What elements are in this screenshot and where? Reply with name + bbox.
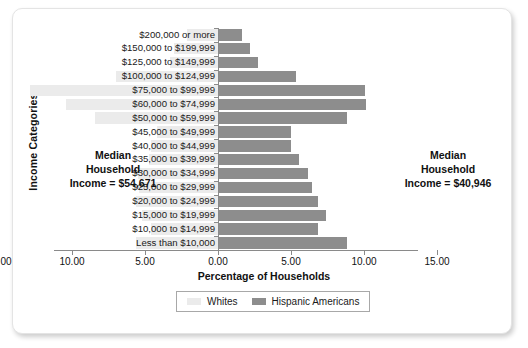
bar-hispanic-americans bbox=[219, 210, 326, 221]
chart-row: $200,000 or more bbox=[54, 28, 418, 42]
bar-hispanic-americans bbox=[219, 43, 250, 54]
chart-row: $15,000 to $19,999 bbox=[54, 208, 418, 222]
y-axis-tick bbox=[214, 236, 218, 237]
legend-swatch bbox=[252, 298, 266, 305]
x-axis-tick bbox=[218, 250, 219, 255]
x-axis-tick bbox=[72, 250, 73, 255]
bar-hispanic-americans bbox=[219, 168, 308, 179]
annotation-median-hispanic: Median Household Income = $40,946 bbox=[383, 148, 513, 190]
chart-canvas: Income Categories $200,000 or more$150,0… bbox=[0, 0, 528, 348]
x-axis-tick-label: 15.00 bbox=[0, 256, 29, 267]
bar-hispanic-americans bbox=[219, 71, 296, 82]
chart-row: $100,000 to $124,999 bbox=[54, 70, 418, 84]
x-axis-tick-label: 10.00 bbox=[334, 256, 394, 267]
y-axis-tick bbox=[214, 222, 218, 223]
vertical-axis-line bbox=[218, 28, 219, 250]
legend-swatch bbox=[187, 298, 201, 305]
annotation-line-3: Income = $54,671 bbox=[48, 176, 178, 190]
category-label: $125,000 to $149,999 bbox=[122, 55, 218, 69]
category-label: $60,000 to $74,999 bbox=[132, 97, 218, 111]
x-axis-tick bbox=[145, 250, 146, 255]
chart-row: $45,000 to $49,999 bbox=[54, 125, 418, 139]
bar-hispanic-americans bbox=[219, 140, 291, 151]
bar-hispanic-americans bbox=[219, 223, 318, 234]
bar-hispanic-americans bbox=[219, 126, 291, 137]
x-axis-tick-label: 10.00 bbox=[42, 256, 102, 267]
chart-legend: WhitesHispanic Americans bbox=[176, 291, 370, 312]
x-axis-tick-label: 5.00 bbox=[115, 256, 175, 267]
legend-label: Whites bbox=[207, 296, 238, 307]
x-axis-tick-label: 0.00 bbox=[188, 256, 248, 267]
x-axis-tick bbox=[364, 250, 365, 255]
y-axis-tick bbox=[214, 167, 218, 168]
x-axis-tick bbox=[291, 250, 292, 255]
chart-screenshot: Income Categories $200,000 or more$150,0… bbox=[0, 0, 528, 348]
chart-row: $50,000 to $59,999 bbox=[54, 111, 418, 125]
category-label: $20,000 to $24,999 bbox=[132, 194, 218, 208]
bar-hispanic-americans bbox=[219, 85, 365, 96]
y-axis-tick bbox=[214, 208, 218, 209]
category-label: $100,000 to $124,999 bbox=[122, 69, 218, 83]
chart-row: $75,000 to $99,999 bbox=[54, 84, 418, 98]
chart-row: $150,000 to $199,999 bbox=[54, 42, 418, 56]
chart-row: $20,000 to $24,999 bbox=[54, 195, 418, 209]
y-axis-tick bbox=[214, 70, 218, 71]
y-axis-tick bbox=[214, 139, 218, 140]
bar-hispanic-americans bbox=[219, 57, 258, 68]
category-label: Less than $10,000 bbox=[136, 236, 218, 250]
bar-hispanic-americans bbox=[219, 154, 299, 165]
x-axis-title: Percentage of Households bbox=[0, 270, 528, 282]
y-axis-tick bbox=[214, 111, 218, 112]
bar-hispanic-americans bbox=[219, 182, 312, 193]
plot-area: $200,000 or more$150,000 to $199,999$125… bbox=[54, 28, 418, 250]
y-axis-tick bbox=[214, 97, 218, 98]
bar-hispanic-americans bbox=[219, 99, 366, 110]
category-label: $75,000 to $99,999 bbox=[132, 83, 218, 97]
y-axis-tick bbox=[214, 28, 218, 29]
category-label: $15,000 to $19,999 bbox=[132, 208, 218, 222]
y-axis-tick bbox=[214, 42, 218, 43]
annotation-line-3: Income = $40,946 bbox=[383, 176, 513, 190]
y-axis-tick bbox=[214, 125, 218, 126]
x-axis-tick-label: 15.00 bbox=[407, 256, 467, 267]
legend-item[interactable]: Whites bbox=[187, 296, 238, 307]
y-axis-tick bbox=[214, 181, 218, 182]
x-axis-tick bbox=[437, 250, 438, 255]
chart-row: $60,000 to $74,999 bbox=[54, 97, 418, 111]
bar-hispanic-americans bbox=[219, 112, 347, 123]
y-axis-tick bbox=[214, 84, 218, 85]
chart-row: $10,000 to $14,999 bbox=[54, 222, 418, 236]
annotation-median-whites: Median Household Income = $54,671 bbox=[48, 148, 178, 190]
y-axis-tick bbox=[214, 56, 218, 57]
bar-hispanic-americans bbox=[219, 29, 242, 40]
bar-hispanic-americans bbox=[219, 196, 318, 207]
annotation-line-1: Median bbox=[383, 148, 513, 162]
annotation-line-2: Household bbox=[383, 162, 513, 176]
bar-hispanic-americans bbox=[219, 237, 347, 248]
category-label: $10,000 to $14,999 bbox=[132, 222, 218, 236]
y-axis-tick bbox=[214, 153, 218, 154]
category-label: $50,000 to $59,999 bbox=[132, 111, 218, 125]
x-axis-tick-label: 5.00 bbox=[261, 256, 321, 267]
category-label: $200,000 or more bbox=[139, 28, 218, 42]
y-axis-tick bbox=[214, 195, 218, 196]
chart-row: $125,000 to $149,999 bbox=[54, 56, 418, 70]
category-label: $150,000 to $199,999 bbox=[122, 41, 218, 55]
chart-row: Less than $10,000 bbox=[54, 236, 418, 250]
annotation-line-2: Household bbox=[48, 162, 178, 176]
legend-label: Hispanic Americans bbox=[272, 296, 360, 307]
legend-item[interactable]: Hispanic Americans bbox=[252, 296, 360, 307]
category-label: $45,000 to $49,999 bbox=[132, 125, 218, 139]
annotation-line-1: Median bbox=[48, 148, 178, 162]
